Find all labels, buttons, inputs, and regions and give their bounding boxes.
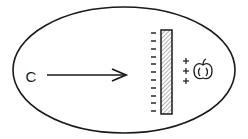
apple-icon <box>194 59 212 79</box>
charge-label: C <box>26 68 37 85</box>
force-arrow-icon <box>47 69 126 81</box>
diagram-canvas: C <box>0 0 248 139</box>
negative-charges <box>151 33 156 111</box>
boundary-ellipse <box>13 7 235 133</box>
positive-charges <box>183 58 189 84</box>
dielectric-bar <box>161 30 172 114</box>
